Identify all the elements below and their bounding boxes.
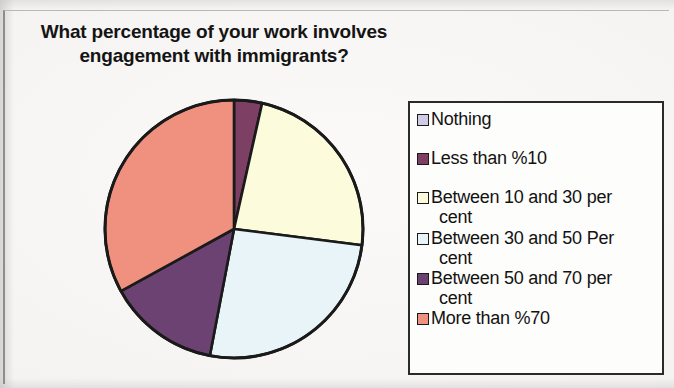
legend-swatch-more-than-70 [417,313,429,325]
legend-label-nothing: Nothing [431,109,491,129]
legend-label-50-to-70-line2: cent [431,288,612,308]
chart-legend: Nothing Less than %10 Between 10 and 30 … [408,101,664,375]
chart-canvas: What percentage of your work involves en… [0,0,674,388]
legend-item-nothing[interactable]: Nothing [417,109,658,129]
legend-label-30-to-50-line2: cent [431,248,614,268]
legend-label-less-than-10: Less than %10 [431,148,547,168]
legend-item-10-to-30[interactable]: Between 10 and 30 per cent [417,187,658,227]
legend-item-less-than-10[interactable]: Less than %10 [417,148,658,168]
legend-label-50-to-70-line1: Between 50 and 70 per [431,268,612,288]
legend-label-50-to-70: Between 50 and 70 per cent [431,268,612,308]
legend-swatch-nothing [417,114,429,126]
pie-slice[interactable] [210,229,362,358]
legend-swatch-10-to-30 [417,192,429,204]
pie-plot-area [0,0,400,388]
legend-label-10-to-30-line2: cent [431,207,612,227]
legend-label-30-to-50: Between 30 and 50 Per cent [431,228,614,268]
legend-label-more-than-70: More than %70 [431,308,550,328]
legend-label-10-to-30-line1: Between 10 and 30 per [431,187,612,207]
legend-item-50-to-70[interactable]: Between 50 and 70 per cent [417,268,658,308]
legend-label-30-to-50-line1: Between 30 and 50 Per [431,228,614,248]
legend-swatch-less-than-10 [417,153,429,165]
legend-swatch-30-to-50 [417,233,429,245]
legend-label-10-to-30: Between 10 and 30 per cent [431,187,612,227]
pie-chart [95,90,373,368]
legend-item-30-to-50[interactable]: Between 30 and 50 Per cent [417,228,658,268]
legend-item-more-than-70[interactable]: More than %70 [417,308,658,328]
legend-swatch-50-to-70 [417,273,429,285]
